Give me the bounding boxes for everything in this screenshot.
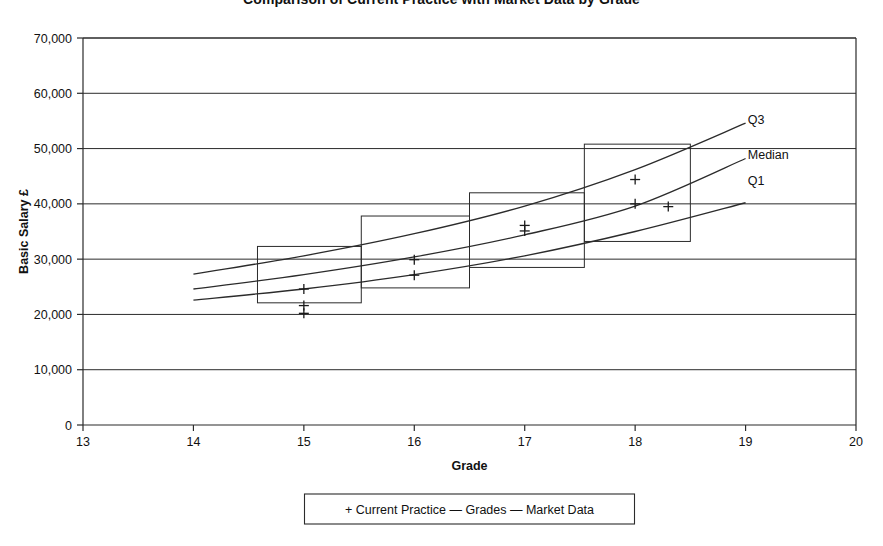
y-tick-label: 40,000 — [34, 197, 72, 211]
y-tick-label: 30,000 — [34, 253, 72, 267]
x-axis-title: Grade — [451, 459, 487, 473]
chart-legend: + Current Practice — Grades — Market Dat… — [305, 494, 635, 524]
x-tick-label: 19 — [739, 435, 753, 449]
x-tick-label: 20 — [849, 435, 863, 449]
current-practice-marker — [630, 175, 640, 185]
y-axis-ticks: 010,00020,00030,00040,00050,00060,00070,… — [34, 32, 83, 433]
y-tick-label: 60,000 — [34, 87, 72, 101]
legend-label: + Current Practice — Grades — Market Dat… — [345, 503, 594, 517]
series-label-median: Median — [748, 148, 789, 162]
y-tick-label: 70,000 — [34, 32, 72, 46]
y-tick-label: 50,000 — [34, 142, 72, 156]
current-practice-marker — [299, 284, 309, 294]
salary-chart: Q3MedianQ1 010,00020,00030,00040,00050,0… — [0, 0, 883, 546]
grade-bands — [257, 144, 690, 303]
chart-page: Comparison of Current Practice with Mark… — [0, 0, 883, 546]
series-label-q3: Q3 — [748, 113, 765, 127]
grade-band-18 — [584, 144, 690, 241]
grade-band-16 — [361, 216, 469, 288]
series-labels: Q3MedianQ1 — [748, 113, 789, 188]
x-tick-label: 15 — [297, 435, 311, 449]
series-label-q1: Q1 — [748, 174, 765, 188]
axis-titles: GradeBasic Salary £ — [17, 189, 488, 473]
x-tick-label: 17 — [518, 435, 532, 449]
x-tick-label: 13 — [76, 435, 90, 449]
current-practice-marker — [409, 270, 419, 280]
x-tick-label: 14 — [186, 435, 200, 449]
x-tick-label: 16 — [407, 435, 421, 449]
y-tick-label: 0 — [65, 419, 72, 433]
y-tick-label: 10,000 — [34, 363, 72, 377]
current-practice-marker — [663, 202, 673, 212]
x-axis-ticks: 1314151617181920 — [76, 425, 863, 449]
y-axis-title: Basic Salary £ — [17, 189, 31, 274]
current-practice-marker — [299, 308, 309, 318]
x-tick-label: 18 — [628, 435, 642, 449]
y-tick-label: 20,000 — [34, 308, 72, 322]
